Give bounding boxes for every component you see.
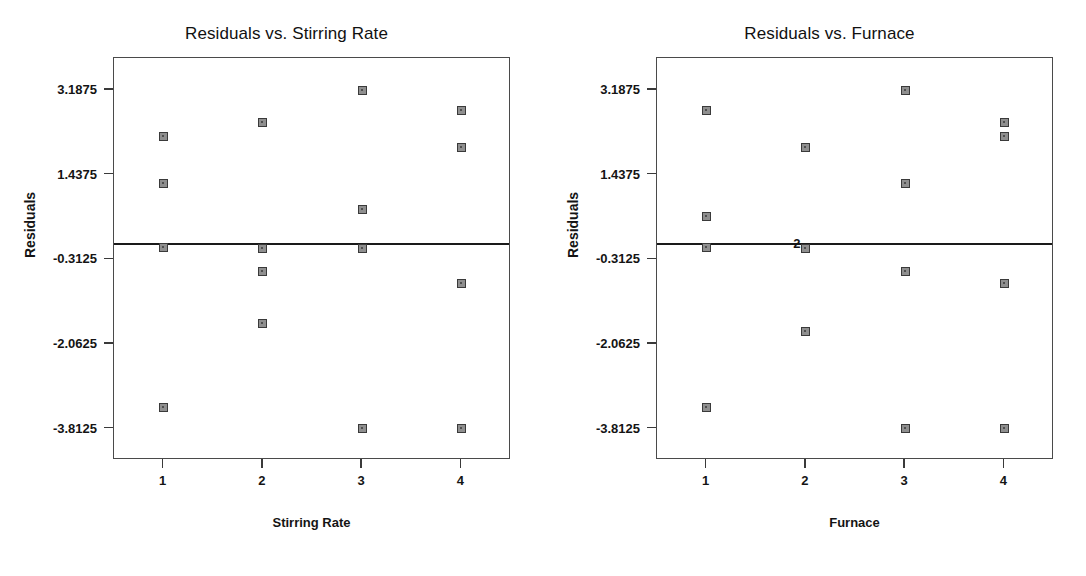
y-tick-mark	[104, 258, 113, 260]
data-point	[457, 424, 466, 433]
data-point	[801, 327, 810, 336]
data-point	[358, 205, 367, 214]
data-point	[801, 244, 810, 253]
y-axis-title: Residuals	[565, 192, 581, 258]
data-point	[901, 86, 910, 95]
data-point	[258, 319, 267, 328]
chart-panel-furnace: Residuals vs. Furnace Residuals 2 3.1875…	[543, 0, 1086, 576]
x-tick-label: 3	[901, 473, 908, 488]
y-axis-title: Residuals	[22, 192, 38, 258]
x-tick-mark	[903, 459, 905, 468]
chart-panel-stirring-rate: Residuals vs. Stirring Rate Residuals 3.…	[0, 0, 543, 576]
residual-plots-canvas: Residuals vs. Stirring Rate Residuals 3.…	[0, 0, 1086, 576]
reference-line-label: 2	[793, 236, 800, 251]
data-point	[702, 243, 711, 252]
data-point	[457, 106, 466, 115]
data-point	[801, 143, 810, 152]
x-tick-label: 2	[258, 473, 265, 488]
x-tick-label: 2	[801, 473, 808, 488]
x-tick-label: 1	[159, 473, 166, 488]
data-point	[702, 212, 711, 221]
data-point	[702, 106, 711, 115]
x-tick-mark	[705, 459, 707, 468]
y-tick-mark	[104, 342, 113, 344]
data-point	[159, 132, 168, 141]
data-point	[1000, 424, 1009, 433]
x-tick-label: 4	[1000, 473, 1007, 488]
data-point	[901, 179, 910, 188]
data-point	[358, 86, 367, 95]
plot-area: 2	[656, 57, 1053, 459]
data-point	[1000, 279, 1009, 288]
data-point	[901, 267, 910, 276]
y-tick-mark	[647, 342, 656, 344]
y-tick-label: -0.3125	[9, 251, 97, 266]
x-tick-mark	[360, 459, 362, 468]
reference-line	[657, 243, 1052, 245]
data-point	[901, 424, 910, 433]
x-tick-mark	[1003, 459, 1005, 468]
y-tick-label: 3.1875	[552, 82, 640, 97]
x-tick-label: 3	[358, 473, 365, 488]
x-tick-label: 4	[457, 473, 464, 488]
y-tick-label: 1.4375	[552, 166, 640, 181]
data-point	[159, 403, 168, 412]
data-point	[457, 143, 466, 152]
chart-title: Residuals vs. Furnace	[603, 24, 1056, 44]
y-tick-mark	[647, 173, 656, 175]
data-point	[358, 424, 367, 433]
data-point	[258, 267, 267, 276]
y-tick-mark	[647, 258, 656, 260]
data-point	[159, 179, 168, 188]
data-point	[258, 118, 267, 127]
data-point	[457, 279, 466, 288]
data-point	[358, 244, 367, 253]
y-tick-mark	[647, 88, 656, 90]
y-tick-label: -3.8125	[552, 420, 640, 435]
x-tick-label: 1	[702, 473, 709, 488]
reference-line	[114, 243, 509, 245]
x-axis-title: Furnace	[656, 515, 1053, 530]
y-tick-label: -2.0625	[552, 336, 640, 351]
y-tick-mark	[104, 173, 113, 175]
data-point	[1000, 132, 1009, 141]
x-tick-mark	[162, 459, 164, 468]
data-point	[702, 403, 711, 412]
x-tick-mark	[460, 459, 462, 468]
y-tick-label: -3.8125	[9, 420, 97, 435]
y-tick-mark	[647, 427, 656, 429]
y-tick-label: 3.1875	[9, 82, 97, 97]
x-axis-title: Stirring Rate	[113, 515, 510, 530]
plot-area	[113, 57, 510, 459]
x-tick-mark	[261, 459, 263, 468]
y-tick-label: -2.0625	[9, 336, 97, 351]
y-tick-label: 1.4375	[9, 166, 97, 181]
data-point	[159, 243, 168, 252]
chart-title: Residuals vs. Stirring Rate	[60, 24, 513, 44]
y-tick-mark	[104, 88, 113, 90]
data-point	[258, 244, 267, 253]
data-point	[1000, 118, 1009, 127]
y-tick-mark	[104, 427, 113, 429]
y-tick-label: -0.3125	[552, 251, 640, 266]
x-tick-mark	[804, 459, 806, 468]
